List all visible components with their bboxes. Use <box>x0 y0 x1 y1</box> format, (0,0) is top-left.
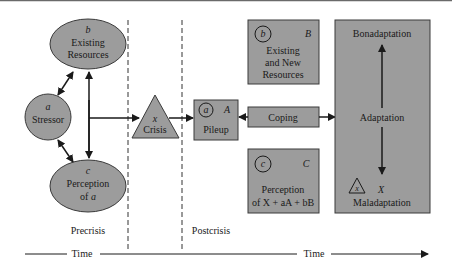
crisis-node: x Crisis <box>132 95 179 138</box>
perception-x-line1: Perception <box>262 184 305 195</box>
new-resources-line3: Resources <box>262 69 303 80</box>
perception-line1: Perception <box>67 178 110 189</box>
adaptation-label: Adaptation <box>360 112 404 123</box>
perception-node: c Perception of a <box>50 160 126 212</box>
perception-circle-letter: c <box>261 158 266 169</box>
stressor-label: Stressor <box>32 114 65 125</box>
perception-x-node: c C Perception of X + aA + bB <box>248 149 319 213</box>
pileup-label: Pileup <box>203 124 229 135</box>
crisis-label: Crisis <box>143 124 166 135</box>
pileup-node: a A Pileup <box>194 100 238 140</box>
adaptation-big-letter: X <box>377 184 385 195</box>
time-label-left: Time <box>72 248 93 259</box>
perception-x-line2: of X + aA + bB <box>252 197 314 208</box>
stressor-perception-arrow <box>58 140 73 162</box>
pileup-letter: A <box>223 104 231 115</box>
pileup-circle-letter: a <box>204 104 209 115</box>
stressor-node: a Stressor <box>25 94 71 140</box>
maladaptation-label: Maladaptation <box>353 197 411 208</box>
resources-line2: Resources <box>67 49 108 60</box>
crisis-letter: x <box>152 113 158 124</box>
coping-label: Coping <box>268 112 297 123</box>
resources-circle-letter: b <box>261 28 266 39</box>
double-abcx-diagram: b Existing Resources a Stressor c Percep… <box>0 0 452 273</box>
resources-letter: b <box>86 24 91 35</box>
triangle-letter: x <box>354 184 359 193</box>
resources-line1: Existing <box>71 37 104 48</box>
bonadaptation-label: Bonadaptation <box>353 28 411 39</box>
precrisis-label: Precrisis <box>71 225 106 236</box>
new-resources-line1: Existing <box>266 45 299 56</box>
stressor-resources-arrow <box>58 72 73 95</box>
stressor-letter: a <box>46 101 51 112</box>
perception-line2: of a <box>80 191 96 202</box>
coping-node: Coping <box>248 107 319 127</box>
resources-big-letter: B <box>305 28 311 39</box>
time-label-right: Time <box>304 248 325 259</box>
existing-resources-node: b Existing Resources <box>50 19 126 69</box>
new-resources-node: b B Existing and New Resources <box>248 20 319 84</box>
perception-letter: c <box>86 165 91 176</box>
postcrisis-label: Postcrisis <box>192 225 230 236</box>
new-resources-line2: and New <box>265 57 302 68</box>
perception-big-letter: C <box>303 158 310 169</box>
